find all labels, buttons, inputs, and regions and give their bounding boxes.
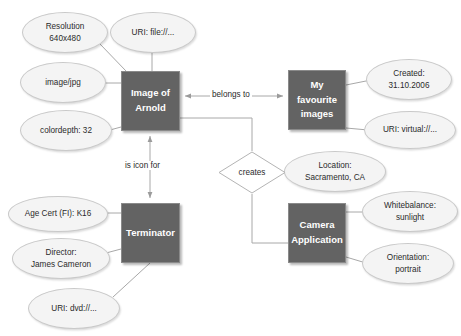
relationship-creates-label: creates xyxy=(218,151,286,194)
attribute-director[interactable]: Director: James Cameron xyxy=(12,238,110,279)
entity-my-favourite-images-label: My favourite images xyxy=(289,78,345,122)
attribute-created[interactable]: Created: 31.10.2006 xyxy=(366,59,452,100)
diagram-canvas: Image of Arnold My favourite images Term… xyxy=(0,0,461,336)
attribute-location-label: Location: Sacramento, CA xyxy=(300,160,370,184)
attribute-image-jpg[interactable]: image/jpg xyxy=(20,62,106,103)
attribute-uri-file-label: URI: file://... xyxy=(127,27,180,39)
attribute-uri-virtual[interactable]: URI: virtual://... xyxy=(364,111,456,149)
attribute-created-label: Created: 31.10.2006 xyxy=(384,68,435,92)
attribute-director-label: Director: James Cameron xyxy=(26,247,96,271)
attribute-orientation[interactable]: Orientation: portrait xyxy=(362,243,454,284)
relationship-creates[interactable]: creates xyxy=(218,151,286,194)
edge-label-belongs-to: belongs to xyxy=(210,90,252,99)
attribute-orientation-label: Orientation: portrait xyxy=(382,252,434,276)
attribute-whitebalance-label: Whitebalance: sunlight xyxy=(379,200,441,224)
attribute-image-jpg-label: image/jpg xyxy=(40,77,86,89)
attribute-uri-dvd-label: URI: dvd://... xyxy=(46,303,102,315)
edge-uridvd-to-terminator xyxy=(113,263,150,297)
attribute-colordepth-label: colordepth: 32 xyxy=(35,125,97,137)
attribute-uri-virtual-label: URI: virtual://... xyxy=(378,124,442,136)
entity-image-of-arnold-label: Image of Arnold xyxy=(128,86,173,115)
entity-camera-application-label: Camera Application xyxy=(288,218,346,247)
attribute-resolution[interactable]: Resolution 640x480 xyxy=(22,12,108,53)
entity-terminator[interactable]: Terminator xyxy=(121,203,180,263)
attribute-colordepth[interactable]: colordepth: 32 xyxy=(20,110,112,151)
attribute-age-cert[interactable]: Age Cert (FI): K16 xyxy=(8,196,108,232)
entity-my-favourite-images[interactable]: My favourite images xyxy=(288,70,346,130)
edge-label-is-icon-for: is icon for xyxy=(123,161,162,170)
attribute-location[interactable]: Location: Sacramento, CA xyxy=(284,151,386,192)
attribute-resolution-label: Resolution 640x480 xyxy=(41,21,90,45)
edge-resolution-to-image xyxy=(100,44,126,71)
attribute-uri-dvd[interactable]: URI: dvd://... xyxy=(28,288,120,329)
entity-terminator-label: Terminator xyxy=(123,226,178,241)
entity-camera-application[interactable]: Camera Application xyxy=(288,203,346,263)
attribute-age-cert-label: Age Cert (FI): K16 xyxy=(20,208,96,220)
attribute-uri-file[interactable]: URI: file://... xyxy=(110,12,196,53)
attribute-whitebalance[interactable]: Whitebalance: sunlight xyxy=(362,191,458,232)
entity-image-of-arnold[interactable]: Image of Arnold xyxy=(121,71,180,131)
